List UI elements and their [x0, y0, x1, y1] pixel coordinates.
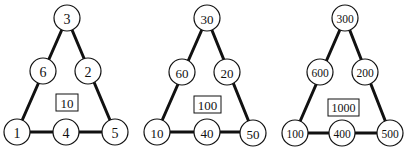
node-bottom-left: 100 [282, 120, 308, 146]
svg-text:3: 3 [64, 12, 71, 27]
node-bottom-left: 10 [144, 119, 170, 145]
node-left-mid: 600 [307, 59, 333, 85]
triangle-2: 100 30 60 20 10 40 50 [144, 5, 266, 146]
svg-text:60: 60 [176, 66, 189, 81]
triangle-1: 10 3 6 2 1 4 5 [4, 5, 128, 145]
svg-text:400: 400 [333, 128, 351, 140]
svg-text:5: 5 [112, 126, 119, 141]
svg-text:300: 300 [336, 13, 354, 25]
svg-text:10: 10 [151, 126, 164, 141]
svg-text:500: 500 [381, 128, 399, 140]
svg-text:100: 100 [198, 98, 218, 113]
node-bottom-right: 50 [240, 120, 266, 146]
svg-text:1: 1 [14, 126, 21, 141]
svg-text:200: 200 [356, 67, 374, 79]
svg-text:20: 20 [221, 66, 234, 81]
svg-text:100: 100 [286, 128, 304, 140]
node-top: 30 [194, 5, 220, 31]
magic-triangles-diagram: 10 3 6 2 1 4 5 100 30 60 20 10 40 50 100… [0, 0, 405, 153]
sum-box: 1000 [328, 99, 359, 116]
node-bottom-mid: 4 [53, 119, 79, 145]
node-bottom-right: 5 [102, 119, 128, 145]
node-bottom-mid: 400 [329, 120, 355, 146]
node-top: 3 [54, 5, 80, 31]
node-left-mid: 6 [30, 58, 56, 84]
svg-text:6: 6 [40, 65, 47, 80]
svg-text:30: 30 [201, 12, 214, 27]
node-bottom-right: 500 [377, 120, 403, 146]
triangle-3: 1000 300 600 200 100 400 500 [282, 5, 403, 146]
sum-box: 100 [194, 96, 221, 113]
node-top: 300 [332, 5, 358, 31]
svg-text:10: 10 [61, 96, 74, 111]
svg-text:4: 4 [63, 126, 70, 141]
svg-text:1000: 1000 [332, 101, 356, 115]
svg-text:40: 40 [201, 126, 214, 141]
node-bottom-mid: 40 [194, 119, 220, 145]
sum-box: 10 [56, 94, 78, 111]
svg-text:2: 2 [85, 65, 92, 80]
svg-text:50: 50 [247, 127, 260, 142]
node-right-mid: 200 [352, 59, 378, 85]
node-right-mid: 2 [75, 58, 101, 84]
node-left-mid: 60 [169, 59, 195, 85]
svg-text:600: 600 [311, 67, 329, 79]
node-bottom-left: 1 [4, 119, 30, 145]
node-right-mid: 20 [214, 59, 240, 85]
